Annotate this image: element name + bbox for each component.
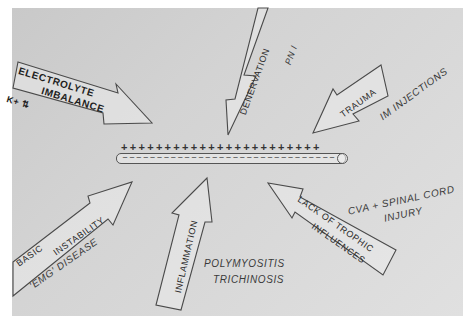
trophic-arrow [268, 183, 396, 275]
inflammation-note-line1: POLYMYOSITIS [204, 259, 285, 269]
diagram-figure: +++++++++++++++++++++++ ‒‒‒‒‒‒‒‒‒‒‒‒‒‒‒‒… [0, 0, 473, 323]
membrane-tube-end [337, 153, 348, 164]
negative-charges: ‒‒‒‒‒‒‒‒‒‒‒‒‒‒‒‒‒‒‒‒‒‒‒‒‒‒‒‒‒‒‒ [122, 152, 336, 163]
trauma-arrow [313, 65, 388, 133]
inflammation-note-line2: TRICHINOSIS [213, 275, 284, 285]
